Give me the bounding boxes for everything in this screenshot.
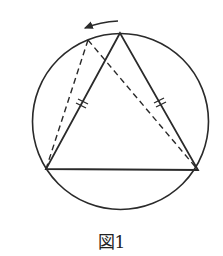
inscribed-triangle-diagram: [0, 0, 223, 256]
circumcircle: [33, 34, 209, 210]
dashed-right-side: [88, 40, 198, 170]
figure-caption: 図1: [0, 228, 223, 253]
rotation-arrow-icon: [85, 21, 118, 28]
